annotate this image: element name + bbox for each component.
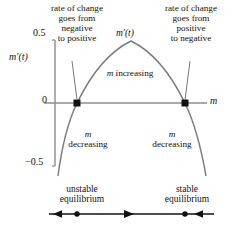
phase-left-label-line-1: unstable	[45, 184, 119, 194]
phase-stable-dot	[182, 211, 187, 216]
stable-equilibrium-point	[182, 100, 189, 107]
phase-right-label-line-1: stable	[150, 184, 224, 194]
left-annotation: rate of change goes from negative to pos…	[34, 4, 120, 44]
region-decreasing-left: m decreasing	[58, 130, 118, 150]
phase-unstable-dot	[74, 211, 79, 216]
phase-left-label-line-2: equilibrium	[45, 194, 119, 204]
phase-right-label-line-2: equilibrium	[150, 194, 224, 204]
phase-left-label: unstable equilibrium	[45, 184, 119, 205]
y-tick-lower: −0.5	[25, 157, 43, 168]
figure-container: rate of change goes from negative to pos…	[0, 0, 236, 227]
left-annotation-leader-line	[72, 61, 77, 100]
region-increasing: m increasing	[91, 69, 169, 79]
right-annotation-line-4: to negative	[148, 34, 234, 44]
phase-arrow-middle-right	[124, 210, 134, 218]
y-axis-label: m′(t)	[9, 52, 28, 63]
left-annotation-line-4: to positive	[34, 34, 120, 44]
region-decreasing-right-word: decreasing	[142, 140, 202, 150]
right-annotation: rate of change goes from positive to neg…	[148, 4, 234, 44]
y-tick-zero: 0	[42, 95, 47, 106]
phase-arrow-left	[53, 210, 62, 218]
x-axis-label: m	[210, 96, 217, 107]
curve-label: m′(t)	[116, 28, 134, 38]
unstable-equilibrium-point	[74, 100, 81, 107]
phase-arrow-right	[194, 210, 203, 218]
y-tick-upper: 0.5	[33, 28, 46, 39]
phase-right-label: stable equilibrium	[150, 184, 224, 205]
region-decreasing-left-word: decreasing	[58, 140, 118, 150]
right-annotation-leader-line	[185, 61, 190, 100]
parabola-curve	[58, 41, 206, 176]
region-increasing-word: increasing	[116, 68, 154, 78]
region-decreasing-right: m decreasing	[142, 130, 202, 150]
